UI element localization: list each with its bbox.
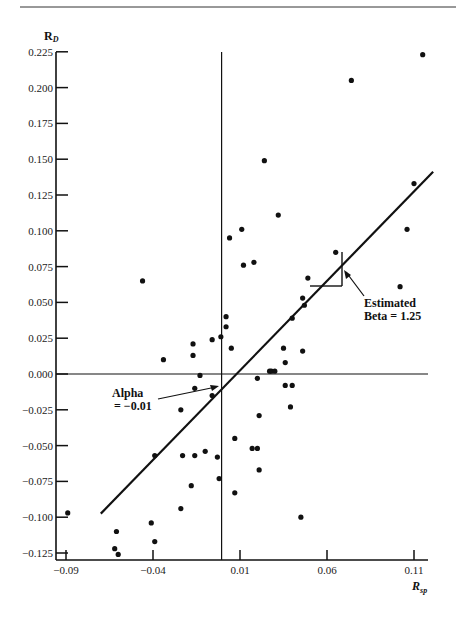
x-tick-label: −0.04 — [140, 564, 166, 576]
data-point — [114, 529, 119, 534]
data-point — [197, 373, 202, 378]
data-point — [298, 515, 303, 520]
y-tick-label: 0.000 — [28, 368, 53, 380]
y-tick-label: 0.100 — [28, 225, 53, 237]
y-tick-label: 0.225 — [28, 46, 53, 58]
data-point — [283, 383, 288, 388]
y-tick-label: −0.100 — [22, 511, 53, 523]
data-point — [178, 407, 183, 412]
alpha-arrowhead-icon — [210, 385, 219, 391]
data-point — [210, 393, 215, 398]
data-point — [161, 357, 166, 362]
data-point — [241, 263, 246, 268]
data-point — [420, 52, 425, 57]
data-point — [302, 303, 307, 308]
data-point — [290, 383, 295, 388]
y-tick-label: −0.125 — [22, 547, 53, 559]
data-point — [300, 296, 305, 301]
data-point — [223, 324, 228, 329]
y-axis-label: RD — [44, 29, 59, 44]
y-tick-label: 0.075 — [28, 261, 53, 273]
data-point — [112, 546, 117, 551]
x-tick-label: 0.01 — [230, 564, 249, 576]
data-point — [411, 181, 416, 186]
data-point — [227, 235, 232, 240]
y-tick-label: 0.150 — [28, 153, 53, 165]
x-tick-label: 0.11 — [405, 564, 424, 576]
y-tick-label: 0.025 — [28, 332, 53, 344]
y-tick-label: 0.175 — [28, 117, 53, 129]
beta-annotation: Estimated Beta = 1.25 — [310, 252, 421, 323]
data-point — [192, 453, 197, 458]
data-point — [305, 275, 310, 280]
data-point — [257, 467, 262, 472]
data-point — [190, 353, 195, 358]
data-point — [300, 348, 305, 353]
data-point — [178, 506, 183, 511]
data-point — [250, 446, 255, 451]
data-point — [203, 449, 208, 454]
data-point — [255, 446, 260, 451]
alpha-value: = −0.01 — [114, 399, 152, 413]
data-point — [251, 260, 256, 265]
y-tick-label: −0.025 — [22, 404, 53, 416]
y-tick-label: 0.200 — [28, 82, 53, 94]
y-tick-label: 0.050 — [28, 296, 53, 308]
data-point — [283, 360, 288, 365]
data-point — [272, 369, 277, 374]
data-point — [65, 510, 70, 515]
data-point — [333, 250, 338, 255]
x-axis-ticks: −0.09−0.040.010.060.11 — [53, 550, 423, 576]
x-tick-label: 0.06 — [317, 564, 337, 576]
y-axis-ticks: 0.2250.2000.1750.1500.1250.1000.0750.050… — [22, 46, 68, 559]
data-point — [276, 212, 281, 217]
data-point — [257, 413, 262, 418]
scatter-chart: 0.2250.2000.1750.1500.1250.1000.0750.050… — [0, 0, 456, 620]
data-point — [288, 404, 293, 409]
y-tick-label: 0.125 — [28, 189, 53, 201]
data-point — [229, 346, 234, 351]
beta-label: Estimated — [364, 296, 416, 310]
x-tick-label: −0.09 — [53, 564, 79, 576]
data-point — [215, 454, 220, 459]
data-point — [210, 337, 215, 342]
data-point — [262, 158, 267, 163]
data-point — [140, 278, 145, 283]
data-point — [255, 376, 260, 381]
data-point — [217, 476, 222, 481]
data-point — [232, 436, 237, 441]
data-point — [281, 346, 286, 351]
data-point — [223, 314, 228, 319]
alpha-arrow — [158, 387, 216, 399]
y-tick-label: −0.050 — [22, 440, 53, 452]
data-point — [190, 341, 195, 346]
data-point — [116, 552, 121, 557]
data-point — [397, 284, 402, 289]
data-point — [180, 453, 185, 458]
data-point — [152, 539, 157, 544]
data-point — [218, 334, 223, 339]
data-point — [152, 453, 157, 458]
data-point — [239, 227, 244, 232]
regression-fit-line — [101, 172, 433, 514]
alpha-label: Alpha — [112, 386, 143, 400]
data-point — [232, 490, 237, 495]
beta-value: Beta = 1.25 — [364, 309, 421, 323]
data-point — [192, 386, 197, 391]
x-axis-label: Rsp — [411, 579, 427, 595]
data-point — [404, 227, 409, 232]
y-tick-label: −0.075 — [22, 475, 53, 487]
data-point — [189, 483, 194, 488]
data-point — [149, 520, 154, 525]
data-point — [349, 78, 354, 83]
regression-line — [101, 172, 433, 514]
data-point — [290, 316, 295, 321]
